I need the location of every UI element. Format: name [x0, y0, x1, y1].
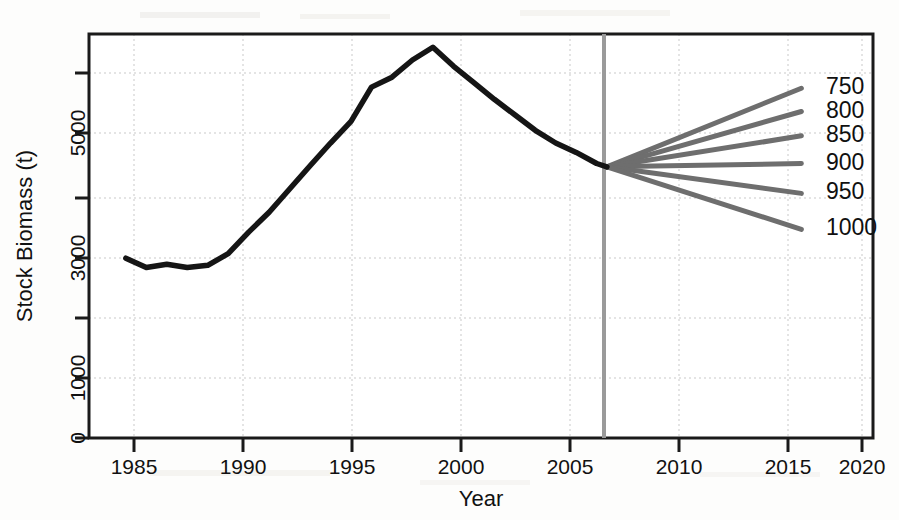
stock-biomass-projection-chart: 0 1000 3000 5000 Stock Biomass (t) 1985 … [0, 0, 899, 520]
y-tick-label-5000: 5000 [66, 110, 89, 157]
x-tick-label-1995: 1995 [329, 455, 376, 478]
x-axis-tick-labels: 1985 1990 1995 2000 2005 2010 2015 2020 [111, 455, 886, 478]
x-tick-label-2015: 2015 [765, 455, 812, 478]
x-tick-label-2005: 2005 [547, 455, 594, 478]
projection-label-800: 800 [826, 97, 864, 123]
y-tick-label-0: 0 [66, 432, 89, 444]
y-axis-title: Stock Biomass (t) [12, 150, 37, 322]
y-tick-label-3000: 3000 [66, 235, 89, 282]
y-axis-tick-labels: 0 1000 3000 5000 [66, 110, 89, 444]
projection-label-950: 950 [826, 178, 864, 204]
chart-figure: 0 1000 3000 5000 Stock Biomass (t) 1985 … [0, 0, 899, 520]
x-tick-label-2020: 2020 [839, 455, 886, 478]
x-tick-label-2000: 2000 [438, 455, 485, 478]
y-tick-label-1000: 1000 [66, 355, 89, 402]
x-axis-ticks [134, 438, 862, 452]
x-axis-title: Year [459, 486, 503, 511]
projection-label-750: 750 [826, 73, 864, 99]
x-tick-label-1990: 1990 [220, 455, 267, 478]
projection-label-900: 900 [826, 149, 864, 175]
projection-label-1000: 1000 [826, 214, 877, 240]
x-tick-label-1985: 1985 [111, 455, 158, 478]
x-tick-label-2010: 2010 [656, 455, 703, 478]
plot-area-background [89, 34, 873, 438]
projection-line-900 [607, 164, 801, 167]
projection-label-850: 850 [826, 121, 864, 147]
